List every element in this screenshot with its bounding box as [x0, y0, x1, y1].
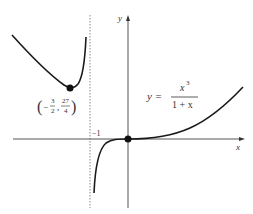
- function-denominator: 1 + x: [172, 99, 193, 110]
- curve-right-branch: [94, 87, 243, 193]
- label-close-paren: ): [71, 98, 76, 116]
- x-axis-label: x: [235, 142, 240, 152]
- y-axis-arrow-icon: [126, 15, 130, 21]
- y-numerator: 27: [62, 97, 70, 105]
- curve-left-branch: [12, 35, 86, 88]
- function-numerator-exponent: 3: [186, 79, 190, 87]
- asymptote-label: −1: [92, 129, 101, 138]
- x-denominator: 2: [51, 107, 55, 115]
- origin-point: [125, 136, 132, 143]
- critical-point-label: ( − 3 2 , 27 4 ): [37, 97, 76, 116]
- function-graph: y x −1 y = x 3 1 + x ( − 3 2 , 27 4 ): [0, 0, 253, 214]
- function-lhs: y =: [146, 90, 162, 102]
- function-numerator: x: [179, 82, 185, 93]
- label-comma: ,: [57, 102, 59, 112]
- x-numerator: 3: [51, 97, 55, 105]
- function-label: y = x 3 1 + x: [146, 79, 198, 110]
- x-axis-arrow-icon: [239, 137, 245, 141]
- label-open-paren: (: [37, 98, 42, 116]
- label-minus-sign: −: [43, 102, 48, 112]
- local-minimum-point: [67, 85, 74, 92]
- y-axis-label: y: [117, 13, 122, 23]
- y-denominator: 4: [64, 107, 68, 115]
